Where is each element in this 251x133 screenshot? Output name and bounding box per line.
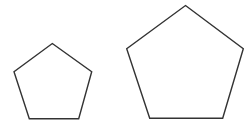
small-pentagon bbox=[14, 44, 92, 119]
large-pentagon bbox=[127, 6, 244, 119]
diagram-canvas bbox=[0, 0, 251, 133]
